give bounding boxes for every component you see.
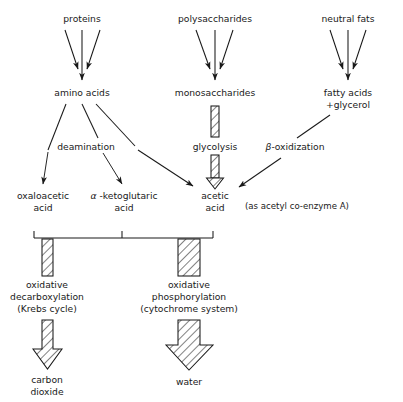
node-polysaccharides: polysaccharides: [178, 13, 252, 24]
glycolysis-shaft-lower: [211, 155, 219, 178]
label-oxidative-phosphorylation-2: phosphorylation: [152, 291, 227, 302]
label-oxidative-phosphorylation-3: (cytochrome system): [140, 303, 238, 314]
label-glycolysis: glycolysis: [193, 141, 238, 152]
glycolysis-shaft-upper: [211, 106, 219, 137]
label-oxidative-decarboxylation-2: decarboxylation: [10, 291, 84, 302]
node-carbon-dioxide-line1: carbon: [31, 374, 63, 385]
node-oxaloacetic-line1: oxaloacetic: [17, 190, 69, 201]
label-oxidative-phosphorylation-1: oxidative: [168, 279, 210, 290]
beta-oxidization-text: -oxidization: [271, 141, 324, 152]
label-oxidative-decarboxylation-1: oxidative: [26, 279, 68, 290]
node-monosaccharides: monosaccharides: [175, 87, 256, 98]
node-water: water: [176, 376, 202, 387]
metabolic-pathway-diagram: proteins amino acids deamination polysac…: [0, 0, 403, 402]
label-oxidative-decarboxylation-3: (Krebs cycle): [17, 303, 77, 314]
node-ketoglutaric-line1: α -ketoglutaric: [91, 190, 158, 201]
node-amino-acids: amino acids: [54, 87, 110, 98]
node-neutral-fats: neutral fats: [321, 13, 374, 24]
node-ketoglutaric-line2: acid: [114, 202, 133, 213]
node-proteins: proteins: [63, 13, 101, 24]
node-acetic-line2: acid: [205, 202, 224, 213]
ketoglutaric-text: -ketoglutaric: [97, 190, 158, 201]
krebs-shaft-upper: [42, 239, 53, 276]
node-acetic-line1: acetic: [201, 190, 229, 201]
note-acetyl-coenzyme-a: (as acetyl co-enzyme A): [245, 201, 349, 211]
label-deamination: deamination: [57, 141, 115, 152]
cytochrome-shaft-upper: [178, 239, 200, 276]
node-carbon-dioxide-line2: dioxide: [30, 386, 64, 397]
label-beta-oxidization: β-oxidization: [265, 141, 325, 152]
node-fatty-acids: fatty acids: [324, 87, 372, 98]
node-oxaloacetic-line2: acid: [33, 202, 52, 213]
node-plus-glycerol: +glycerol: [326, 99, 370, 110]
